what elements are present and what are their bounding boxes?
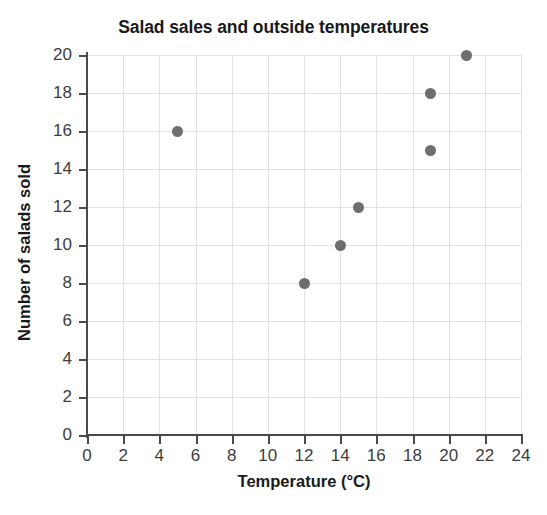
gridline-horizontal [87,55,521,56]
x-axis-tick [304,435,306,444]
x-axis-tick-label: 0 [67,447,107,464]
x-axis-tick-label: 6 [176,447,216,464]
x-axis-tick-label: 2 [103,447,143,464]
x-axis-tick [268,435,270,444]
data-point [425,88,436,99]
y-axis-tick [79,245,88,247]
y-axis-tick-label: 18 [32,84,72,101]
gridline-vertical [521,55,522,435]
y-axis-label: Number of salads sold [15,123,34,383]
y-axis-tick-label: 2 [32,388,72,405]
y-axis-tick-label: 4 [32,350,72,367]
gridline-horizontal [87,93,521,94]
y-axis-tick [79,397,88,399]
data-point [335,240,346,251]
data-point [299,278,310,289]
x-axis-tick-label: 4 [139,447,179,464]
gridline-horizontal [87,131,521,132]
y-axis-tick [79,359,88,361]
data-point [353,202,364,213]
chart-title: Salad sales and outside temperatures [0,17,547,38]
y-axis-tick [79,207,88,209]
x-axis-tick [232,435,234,444]
y-axis-tick [79,321,88,323]
x-axis-tick-label: 14 [320,447,360,464]
x-axis-tick [376,435,378,444]
y-axis-tick-label: 16 [32,122,72,139]
data-point [172,126,183,137]
y-axis-tick [79,131,88,133]
x-axis-tick [159,435,161,444]
x-axis-tick [485,435,487,444]
x-axis-tick [340,435,342,444]
clipped-text-above [0,0,547,2]
x-axis-label: Temperature (°C) [87,472,521,491]
x-axis-tick-label: 22 [465,447,505,464]
gridline-horizontal [87,359,521,360]
y-axis-tick [79,283,88,285]
gridline-horizontal [87,397,521,398]
scatter-plot-figure: Salad sales and outside temperatures Num… [0,0,547,515]
data-point [425,145,436,156]
x-axis-tick-label: 16 [356,447,396,464]
x-axis-tick-label: 20 [429,447,469,464]
y-axis-tick-label: 8 [32,274,72,291]
x-axis-tick [521,435,523,444]
y-axis-tick [79,169,88,171]
x-axis-tick-label: 12 [284,447,324,464]
y-axis-tick-label: 12 [32,198,72,215]
y-axis-tick [79,55,88,57]
gridline-horizontal [87,245,521,246]
x-axis-tick [87,435,89,444]
gridline-horizontal [87,207,521,208]
x-axis-tick-label: 10 [248,447,288,464]
plot-area [87,55,521,435]
x-axis-tick [413,435,415,444]
gridline-horizontal [87,321,521,322]
y-axis-tick-label: 0 [32,426,72,443]
x-axis-tick-label: 18 [393,447,433,464]
y-axis-tick-label: 10 [32,236,72,253]
x-axis-tick-label: 24 [501,447,541,464]
x-axis-tick [449,435,451,444]
x-axis-tick [123,435,125,444]
data-point [461,50,472,61]
gridline-horizontal [87,169,521,170]
y-axis-tick [79,93,88,95]
y-axis-tick-label: 6 [32,312,72,329]
x-axis-tick-label: 8 [212,447,252,464]
x-axis-tick [196,435,198,444]
y-axis-tick-label: 14 [32,160,72,177]
y-axis-tick-label: 20 [32,46,72,63]
